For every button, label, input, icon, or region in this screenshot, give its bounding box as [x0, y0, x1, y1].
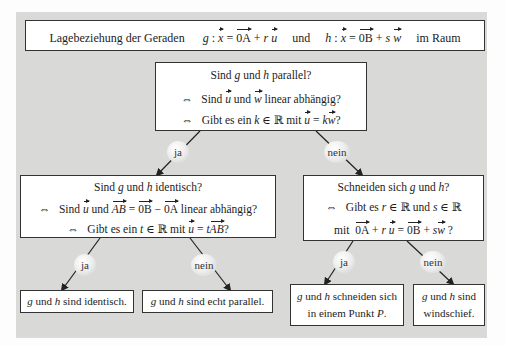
no-badge: nein	[191, 254, 217, 276]
yes-badge: ja	[333, 251, 355, 273]
question-identical-heading: Sind g und h identisch?	[21, 181, 275, 195]
result-intersect-line2: in einem Punkt P.	[291, 307, 403, 320]
question-intersect-line2: ⇔ Gibt es r ∈ ℝ und s ∈ ℝ	[304, 201, 483, 215]
question-parallel-heading: Sind g und h parallel?	[156, 69, 366, 83]
result-skew-line2: windschief.	[414, 307, 484, 320]
title-connector: und	[292, 31, 310, 45]
yes-badge: ja	[74, 254, 96, 276]
result-parallel-box: g und h sind echt parallel.	[142, 290, 273, 313]
question-identical-box: Sind g und h identisch? ⇔ Sind u und AB=…	[20, 175, 276, 238]
equivalence-icon: ⇔	[326, 201, 338, 213]
result-identical-text: g und h sind identisch.	[21, 295, 133, 308]
question-intersect-line3: mit 0A + r u=0B + sw ?	[304, 221, 483, 238]
equivalence-icon: ⇔	[181, 93, 193, 105]
result-skew-box: g und h sind windschief.	[413, 284, 485, 326]
result-parallel-text: g und h sind echt parallel.	[143, 295, 272, 308]
question-parallel-box: Sind g und h parallel? ⇔ Sind u und w li…	[155, 62, 367, 131]
line-g-equation: g : x=0A + r u	[203, 31, 278, 45]
no-badge: nein	[324, 141, 350, 163]
equivalence-icon: ⇔	[182, 114, 194, 126]
title-line: Lagebeziehung der Geraden g : x=0A + r u…	[26, 28, 484, 45]
question-identical-line3: ⇔ Gibt es ein t ∈ ℝ mit u=tAB?	[21, 220, 275, 237]
equivalence-icon: ⇔	[67, 223, 79, 235]
question-intersect-box: Schneiden sich g und h? ⇔ Gibt es r ∈ ℝ …	[303, 175, 484, 241]
result-skew-line1: g und h sind	[414, 290, 484, 303]
result-identical-box: g und h sind identisch.	[20, 290, 134, 313]
result-intersect-line1: g und h schneiden sich	[291, 290, 403, 303]
title-text: Lagebeziehung der Geraden	[49, 31, 184, 45]
equivalence-icon: ⇔	[39, 203, 51, 215]
line-h-equation: h : x=0B + s w	[325, 31, 401, 45]
yes-badge: ja	[167, 141, 189, 163]
result-intersect-box: g und h schneiden sich in einem Punkt P.	[290, 284, 404, 326]
question-parallel-line2: ⇔ Sind u und w linear abhängig?	[156, 90, 366, 107]
no-badge: nein	[420, 251, 446, 273]
question-identical-line2: ⇔ Sind u und AB=0B − 0A linear abhängig?	[21, 200, 275, 217]
title-box: Lagebeziehung der Geraden g : x=0A + r u…	[25, 20, 485, 51]
question-intersect-heading: Schneiden sich g und h?	[304, 181, 483, 195]
question-parallel-line3: ⇔ Gibt es ein k ∈ ℝ mit u=kw?	[156, 111, 366, 128]
title-suffix: im Raum	[416, 31, 460, 45]
